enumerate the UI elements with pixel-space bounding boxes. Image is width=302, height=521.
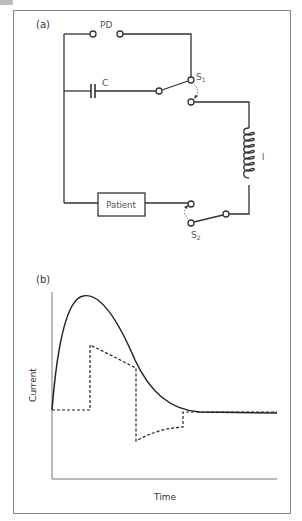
s1-top-terminal	[188, 77, 194, 83]
pd-right-wire	[123, 34, 191, 77]
s2-arm	[194, 215, 223, 222]
s1-bottom-terminal	[188, 99, 194, 105]
truncated-pulse-curve	[52, 345, 277, 441]
capacitor-label: C	[102, 78, 108, 88]
s2-top-terminal	[188, 201, 194, 207]
panel-b-label: (b)	[36, 274, 50, 285]
s2-label: S2	[191, 230, 201, 241]
panel-a-label: (a)	[36, 19, 50, 30]
pd-label: PD	[100, 20, 112, 30]
s1-arm	[162, 81, 188, 90]
inductor-coil	[244, 128, 255, 178]
pd-terminal-right	[117, 31, 123, 37]
y-axis-label: Current	[28, 368, 38, 402]
x-axis-label: Time	[153, 492, 176, 502]
inductor-label: I	[262, 153, 264, 162]
s2-common-terminal	[223, 211, 229, 217]
s1-throw-arrow	[194, 84, 198, 97]
circuit-diagram	[64, 31, 254, 226]
inductor-bottom-wire	[229, 185, 249, 214]
inductor-top-wire	[194, 102, 249, 128]
current-chart	[52, 292, 277, 479]
patient-label: Patient	[106, 200, 136, 210]
damped-pulse-curve	[52, 296, 277, 413]
s2-bottom-terminal	[188, 220, 194, 226]
figure-canvas: (a) PD C S1	[0, 0, 302, 521]
s1-arrowhead-icon	[194, 95, 198, 99]
s1-label: S1	[196, 72, 206, 83]
s1-common-terminal	[156, 88, 162, 94]
s2-throw-arrow	[184, 208, 188, 219]
pd-terminal-left	[90, 31, 96, 37]
